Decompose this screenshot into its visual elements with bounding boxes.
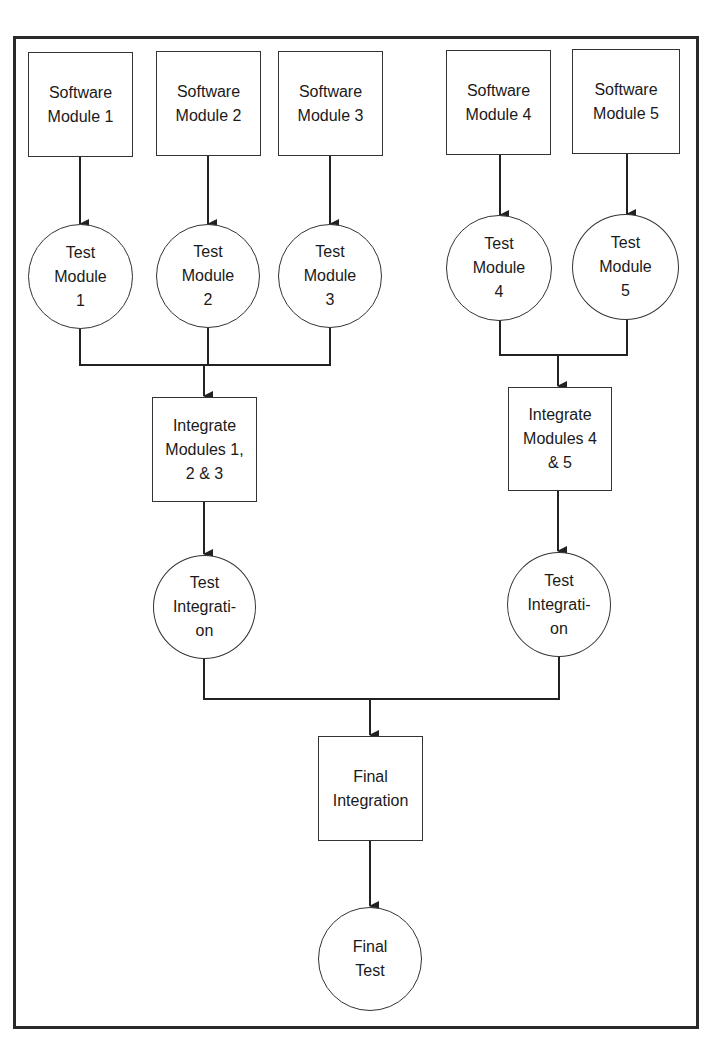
- final-integration-box: Final Integration: [318, 736, 423, 841]
- test-module-2-circle: Test Module 2: [156, 224, 260, 328]
- node-label: Integrate Modules 4 & 5: [523, 403, 597, 475]
- integrate-modules-1-2-3-box: Integrate Modules 1, 2 & 3: [152, 397, 257, 502]
- software-module-1-box: Software Module 1: [28, 52, 133, 157]
- software-module-3-box: Software Module 3: [278, 51, 383, 156]
- node-label: Software Module 2: [176, 80, 242, 128]
- software-module-5-box: Software Module 5: [572, 49, 680, 154]
- test-module-5-circle: Test Module 5: [572, 214, 679, 320]
- node-label: Software Module 1: [48, 81, 114, 129]
- test-module-1-circle: Test Module 1: [28, 224, 133, 329]
- integrate-modules-4-5-box: Integrate Modules 4 & 5: [508, 387, 612, 491]
- node-label: Software Module 3: [298, 80, 364, 128]
- node-label: Final Integration: [333, 765, 409, 813]
- node-label: Test Module 5: [599, 231, 651, 303]
- final-test-circle: Final Test: [318, 907, 422, 1011]
- node-label: Test Module 3: [304, 240, 356, 312]
- node-label: Software Module 5: [593, 78, 659, 126]
- node-label: Final Test: [353, 935, 388, 983]
- test-module-4-circle: Test Module 4: [446, 215, 552, 321]
- test-integration-right-circle: Test Integrati- on: [507, 552, 611, 657]
- test-module-3-circle: Test Module 3: [278, 224, 382, 328]
- node-label: Test Module 4: [473, 232, 525, 304]
- node-label: Integrate Modules 1, 2 & 3: [165, 414, 243, 486]
- node-label: Test Module 2: [182, 240, 234, 312]
- test-integration-left-circle: Test Integrati- on: [153, 555, 256, 659]
- node-label: Test Module 1: [54, 241, 106, 313]
- node-label: Test Integrati- on: [173, 571, 236, 643]
- node-label: Software Module 4: [466, 79, 532, 127]
- node-label: Test Integrati- on: [527, 569, 590, 641]
- software-module-4-box: Software Module 4: [446, 50, 551, 155]
- software-module-2-box: Software Module 2: [156, 51, 261, 156]
